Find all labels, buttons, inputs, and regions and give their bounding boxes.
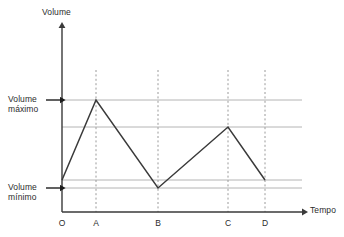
volume-minimo-label: Volume mínimo: [8, 182, 37, 202]
x-tick-label-b: B: [151, 218, 165, 228]
x-tick-label-a: A: [89, 218, 103, 228]
volume-maximo-label-line2: máximo: [8, 104, 38, 114]
y-axis-title: Volume: [42, 7, 71, 17]
volume-minimo-label-line1: Volume: [8, 182, 37, 192]
volume-minimo-label-line2: mínimo: [8, 192, 37, 202]
volume-maximo-label: Volume máximo: [8, 94, 38, 114]
gridline-group: [62, 100, 302, 188]
volume-curve: [62, 100, 265, 188]
x-tick-label-d: D: [258, 218, 272, 228]
x-tick-label-c: C: [221, 218, 235, 228]
x-tick-label-o: O: [55, 218, 69, 228]
volume-time-chart: [0, 0, 344, 237]
chart-figure: Volume Tempo Volume máximo Volume mínimo…: [0, 0, 344, 237]
dashed-guide-group: [96, 70, 265, 212]
x-axis-title: Tempo: [310, 205, 336, 215]
volume-maximo-label-line1: Volume: [8, 94, 38, 104]
